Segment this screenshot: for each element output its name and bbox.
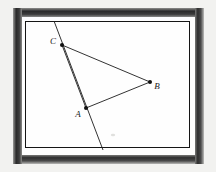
frame-edge-top bbox=[13, 8, 204, 17]
paper-smudge bbox=[111, 134, 115, 137]
point-A-marker bbox=[84, 106, 88, 110]
frame-edge-left bbox=[13, 8, 22, 164]
drawing-canvas bbox=[22, 17, 195, 155]
frame-edge-right bbox=[195, 8, 204, 164]
point-B-marker bbox=[148, 80, 152, 84]
point-label-C: C bbox=[50, 36, 57, 46]
geometry-diagram: C B A bbox=[0, 0, 216, 172]
point-label-A: A bbox=[74, 109, 81, 119]
point-C-marker bbox=[60, 43, 64, 47]
point-label-B: B bbox=[154, 81, 160, 91]
figure-container: C B A bbox=[0, 0, 216, 172]
frame-edge-bottom bbox=[13, 155, 204, 164]
